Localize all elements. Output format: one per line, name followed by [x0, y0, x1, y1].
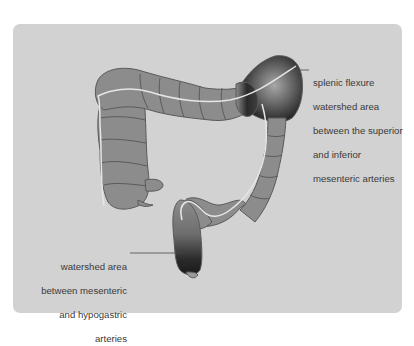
- splenic-flexure: [236, 56, 303, 122]
- label-line: and hypogastric: [34, 309, 127, 321]
- label-line: mesenteric arteries: [313, 173, 403, 185]
- label-line: splenic flexure: [313, 77, 403, 89]
- rectosigmoid-watershed-label: watershed area between mesenteric and hy…: [34, 249, 127, 346]
- label-line: watershed area: [313, 101, 403, 113]
- label-line: between the superior: [313, 125, 403, 137]
- label-line: watershed area: [34, 261, 127, 273]
- label-line: and inferior: [313, 149, 403, 161]
- descending-colon: [240, 118, 286, 222]
- label-line: arteries: [34, 333, 127, 345]
- splenic-watershed-label: splenic flexure watershed area between t…: [313, 65, 403, 197]
- label-line: between mesenteric: [34, 285, 127, 297]
